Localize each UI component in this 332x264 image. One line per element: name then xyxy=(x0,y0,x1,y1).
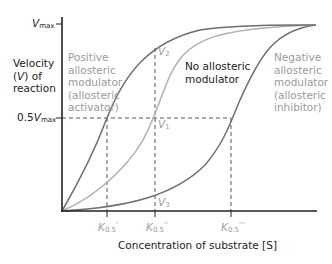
negative-line-3: modulator xyxy=(274,76,328,89)
positive-modulator-label: Positive allosteric modulator (allosteri… xyxy=(68,51,122,114)
k3-sub: 0.5 xyxy=(228,226,239,234)
k2-k: K xyxy=(146,221,153,233)
no-modulator-label: No allosteric modulator xyxy=(185,60,250,85)
positive-line-1: Positive xyxy=(68,51,122,64)
v3-sub: 3 xyxy=(165,201,169,209)
positive-line-3: modulator xyxy=(68,76,122,89)
k2-label: K0.5'' xyxy=(146,219,168,237)
half-sub: max xyxy=(41,116,56,124)
k1-sub: 0.5 xyxy=(105,226,116,234)
v2-label: V2 xyxy=(158,45,170,61)
v2-sub: 2 xyxy=(165,50,169,58)
v1-label: V1 xyxy=(158,118,170,134)
y-axis-title: Velocity (V) of reaction xyxy=(13,57,56,95)
positive-line-2: allosteric xyxy=(68,64,122,77)
y-axis-line-1: Velocity xyxy=(13,57,56,70)
vmax-label: Vmax xyxy=(32,17,54,33)
positive-line-5: activator) xyxy=(68,101,122,114)
k1-prime: ' xyxy=(116,221,118,229)
half-vmax-label: 0.5Vmax xyxy=(17,111,56,127)
negative-line-5: inhibitor) xyxy=(274,101,328,114)
y-axis-line-2: (V) of xyxy=(13,70,56,83)
k1-label: K0.5' xyxy=(98,219,118,237)
k2-prime: '' xyxy=(164,221,168,229)
half-v: V xyxy=(34,111,41,123)
positive-line-4: (allosteric xyxy=(68,89,122,102)
v3-label: V3 xyxy=(158,196,170,212)
negative-line-1: Negative xyxy=(274,51,328,64)
none-line-1: No allosteric xyxy=(185,60,250,73)
k1-k: K xyxy=(98,221,105,233)
negative-modulator-label: Negative allosteric modulator (allosteri… xyxy=(274,51,328,114)
y-axis-line-3: reaction xyxy=(13,82,56,95)
k2-sub: 0.5 xyxy=(153,226,164,234)
negative-line-2: allosteric xyxy=(274,64,328,77)
half-prefix: 0.5 xyxy=(17,111,34,123)
x-axis-title: Concentration of substrate [S] xyxy=(118,239,277,252)
k3-label: K0.5''' xyxy=(221,219,245,237)
none-line-2: modulator xyxy=(185,73,250,86)
vmax-sub: max xyxy=(39,22,54,30)
k3-prime: ''' xyxy=(239,221,245,229)
k3-k: K xyxy=(221,221,228,233)
negative-line-4: (allosteric xyxy=(274,89,328,102)
v1-sub: 1 xyxy=(165,123,169,131)
